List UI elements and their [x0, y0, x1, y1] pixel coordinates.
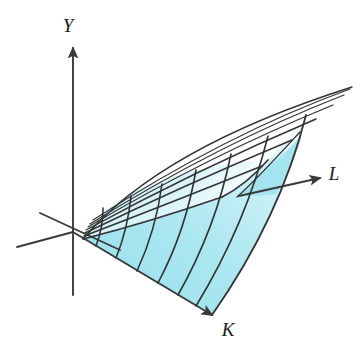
negative-l-axis-line [17, 232, 73, 247]
figure-canvas: Y L K [0, 0, 363, 351]
production-surface-figure: Y L K [0, 0, 363, 351]
y-axis-label: Y [63, 15, 76, 36]
k-axis-label: K [221, 319, 236, 340]
l-axis-label: L [328, 163, 340, 184]
